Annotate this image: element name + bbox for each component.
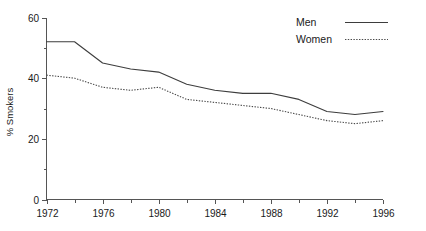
y-tick-label: 40 xyxy=(28,73,40,84)
x-tick-label: 1996 xyxy=(372,208,395,219)
y-tick-label: 20 xyxy=(28,134,40,145)
legend-label-women: Women xyxy=(296,33,332,45)
series-line-men xyxy=(47,42,384,115)
y-tick-label: 0 xyxy=(33,195,39,206)
series-line-women xyxy=(47,75,384,124)
x-tick-label: 1992 xyxy=(316,208,339,219)
line-chart: 02040601972197619801984198819921996% Smo… xyxy=(0,0,426,231)
chart-container: 02040601972197619801984198819921996% Smo… xyxy=(0,0,426,231)
x-tick-label: 1984 xyxy=(204,208,227,219)
x-tick-label: 1972 xyxy=(36,208,59,219)
x-tick-label: 1988 xyxy=(260,208,283,219)
x-tick-label: 1980 xyxy=(148,208,171,219)
legend-label-men: Men xyxy=(296,16,317,28)
y-axis-title: % Smokers xyxy=(4,87,15,136)
y-tick-label: 60 xyxy=(28,13,40,24)
x-tick-label: 1976 xyxy=(92,208,115,219)
